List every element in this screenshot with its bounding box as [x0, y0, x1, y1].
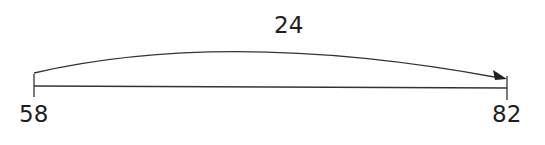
end-label: 82 — [492, 103, 521, 126]
jump-arc — [34, 52, 507, 80]
jump-label: 24 — [274, 14, 303, 37]
arrowhead-icon — [493, 70, 507, 80]
jump-arc-curve — [34, 52, 500, 78]
number-line — [34, 74, 507, 100]
number-line-axis — [34, 86, 507, 88]
start-label: 58 — [19, 103, 48, 126]
number-line-diagram — [0, 0, 545, 145]
